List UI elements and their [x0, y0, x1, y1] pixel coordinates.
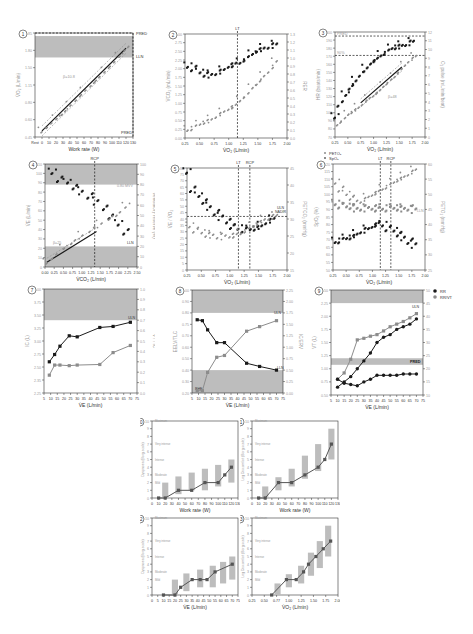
y-tick-label: 1.75: [175, 76, 182, 80]
data-marker: [349, 383, 352, 386]
data-point: [407, 175, 409, 177]
y-tick-label: 105: [324, 185, 330, 189]
y-tick-label: 10: [245, 517, 249, 521]
data-marker: [356, 384, 359, 387]
data-point: [241, 224, 243, 226]
x-tick-label: 0: [151, 502, 153, 506]
data-point: [386, 221, 388, 223]
y-tick-label: 0: [40, 266, 42, 270]
x-tick-label: 120: [123, 141, 129, 145]
x-tick-label: 90: [310, 502, 314, 506]
y-tick-label: 2.25: [34, 392, 41, 396]
x-tick-label: 1.25: [382, 274, 389, 278]
y-tick-label: 5: [247, 555, 249, 559]
data-point: [344, 95, 346, 97]
data-point: [394, 44, 396, 46]
x-tick-label: 1.75: [269, 274, 276, 278]
data-point: [78, 238, 80, 240]
y-tick-label: 0.75: [182, 323, 189, 327]
chart-hr-o2-pulse: 7080901001101201301401501601701801902000…: [313, 20, 473, 165]
data-marker: [415, 317, 418, 320]
data-point: [113, 62, 115, 64]
data-point: [96, 200, 98, 202]
x-tick-label: 110: [116, 141, 122, 145]
data-point: [217, 210, 219, 212]
panel-11-leg-work: 0123456789100102030405060708090100110120…: [240, 418, 340, 513]
data-marker: [330, 443, 333, 446]
y-tick-label: 30: [38, 237, 42, 241]
reference-band: [331, 290, 423, 303]
y2-tick-label: 4: [428, 101, 430, 105]
data-point: [232, 237, 234, 239]
data-marker: [164, 496, 167, 499]
data-marker: [68, 334, 71, 337]
y-tick-label: 0.60: [25, 118, 32, 122]
x-tick-label: 20: [54, 141, 58, 145]
x-tick-label: 55: [255, 397, 259, 401]
data-point: [245, 225, 247, 227]
y2-tick-label: 9: [428, 57, 430, 61]
data-point: [408, 44, 410, 46]
borg-category-label: Intense: [255, 458, 265, 462]
data-point: [70, 179, 72, 181]
data-point: [400, 179, 402, 181]
y-tick-label: 115: [324, 170, 330, 174]
data-marker: [336, 378, 339, 381]
x-tick-label: 50: [102, 397, 106, 401]
data-marker: [129, 344, 132, 347]
x-tick-label: 1.50: [395, 274, 402, 278]
data-marker: [173, 593, 176, 596]
data-point: [337, 191, 339, 193]
x-tick-label: 0.50: [196, 142, 203, 146]
data-marker: [196, 318, 199, 321]
data-point: [251, 54, 253, 56]
y-tick-label: 80: [328, 127, 332, 131]
data-point: [272, 64, 274, 66]
data-point: [195, 68, 197, 70]
y-tick-label: 3.00: [34, 340, 41, 344]
data-point: [195, 66, 197, 68]
x-axis-label: V̇O₂ (L/min): [282, 604, 308, 610]
data-point: [121, 220, 123, 222]
y2-tick-label: 45: [290, 167, 294, 171]
data-point: [259, 48, 261, 50]
data-marker: [111, 325, 114, 328]
data-point: [331, 178, 333, 180]
x-tick-label: 2.25: [124, 271, 131, 275]
x-tick-label: 2.00: [284, 274, 291, 278]
panel-number: 13: [240, 517, 243, 522]
y-axis-label: V̇CO₂ (mL/min): [165, 70, 171, 102]
data-marker: [223, 341, 226, 344]
x-tick-label: 60: [82, 141, 86, 145]
data-marker: [388, 374, 391, 377]
data-point: [337, 207, 339, 209]
x-tick-label: 10: [161, 599, 165, 603]
data-marker: [58, 345, 61, 348]
x-tick-label: 1.50: [254, 142, 261, 146]
y2-tick-label: 0.3: [290, 113, 295, 117]
y-tick-label: 50: [326, 269, 330, 273]
x-tick-label: 60: [262, 397, 266, 401]
data-point: [403, 208, 405, 210]
y-tick-label: 7: [247, 540, 249, 544]
x-tick-label: 120: [228, 502, 234, 506]
data-marker: [402, 325, 405, 328]
y-tick-label: 0: [247, 497, 249, 501]
y2-tick-label: 6: [428, 83, 430, 87]
x-tick-label: 40: [236, 397, 240, 401]
data-point: [367, 228, 369, 230]
y-tick-label: 50: [180, 205, 184, 209]
y2-tick-label: 30: [140, 235, 144, 239]
y-tick-label: 0.30: [182, 380, 189, 384]
data-point: [209, 237, 211, 239]
data-point: [248, 227, 250, 229]
data-point: [366, 67, 368, 69]
y2-axis-label: PETO₂ (mmHg): [440, 201, 445, 234]
panel-12-dyspnoea-ve: 0123456789100510152025303540455055606570…: [140, 515, 240, 610]
data-point: [385, 188, 387, 190]
x-tick-label: 10: [257, 502, 261, 506]
y-tick-label: 3: [147, 570, 149, 574]
data-marker: [402, 372, 405, 375]
data-marker: [206, 328, 209, 331]
panel-4-ve-vco2: 0102030405060708090100110010203040506070…: [0, 155, 155, 290]
